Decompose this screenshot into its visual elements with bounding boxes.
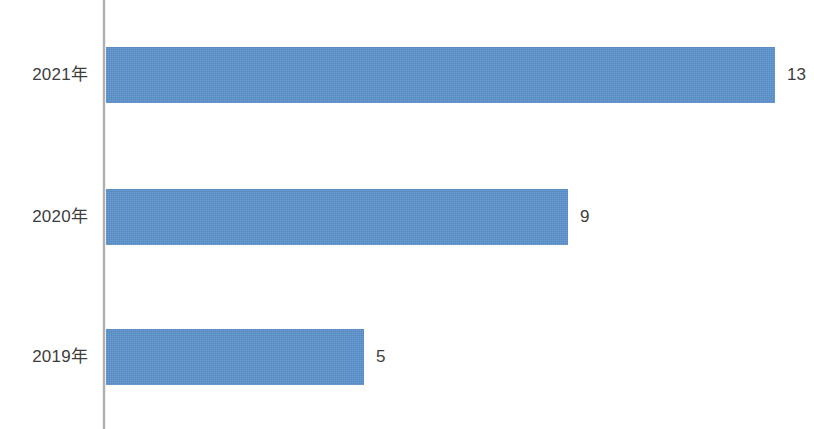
bar-row: 2019年 5 xyxy=(0,329,814,385)
plot-area: 2021年 13 2020年 9 2019年 5 xyxy=(0,0,814,429)
bar-2021[interactable] xyxy=(106,47,775,103)
bar-2020[interactable] xyxy=(106,189,568,245)
category-label-2020: 2020年 xyxy=(0,189,88,245)
category-label-2021: 2021年 xyxy=(0,47,88,103)
bar-row: 2020年 9 xyxy=(0,189,814,245)
value-label-2020: 9 xyxy=(580,189,589,245)
value-label-2021: 13 xyxy=(787,47,806,103)
bar-2019[interactable] xyxy=(106,329,364,385)
bar-chart: 2021年 13 2020年 9 2019年 5 xyxy=(0,0,814,429)
category-label-2019: 2019年 xyxy=(0,329,88,385)
value-label-2019: 5 xyxy=(376,329,385,385)
bar-row: 2021年 13 xyxy=(0,47,814,103)
